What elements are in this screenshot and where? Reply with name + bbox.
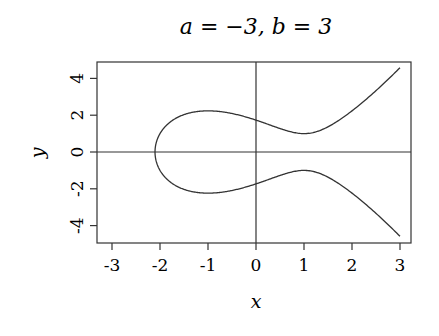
x-tick-label: 3 <box>395 255 406 275</box>
x-tick-label: -2 <box>152 255 169 275</box>
x-tick-label: 1 <box>299 255 310 275</box>
y-axis: -4-2024 <box>67 73 97 234</box>
y-tick-label: -2 <box>67 181 87 198</box>
curve-upper-branch <box>155 68 400 152</box>
x-tick-label: -3 <box>104 255 121 275</box>
x-tick-label: -1 <box>200 255 217 275</box>
x-tick-label: 2 <box>347 255 358 275</box>
curve-lower-branch <box>155 152 400 236</box>
chart-title: a = −3, b = 3 <box>180 14 332 39</box>
x-axis-label: x <box>251 290 262 312</box>
y-tick-label: 0 <box>67 147 87 158</box>
y-axis-label: y <box>26 147 48 159</box>
chart: a = −3, b = 3 -3-2-10123 -4-2024 x y <box>0 0 439 336</box>
y-tick-label: 2 <box>67 110 87 121</box>
x-axis: -3-2-10123 <box>104 243 406 275</box>
x-tick-label: 0 <box>251 255 262 275</box>
y-tick-label: 4 <box>67 73 87 84</box>
y-tick-label: -4 <box>67 217 87 234</box>
